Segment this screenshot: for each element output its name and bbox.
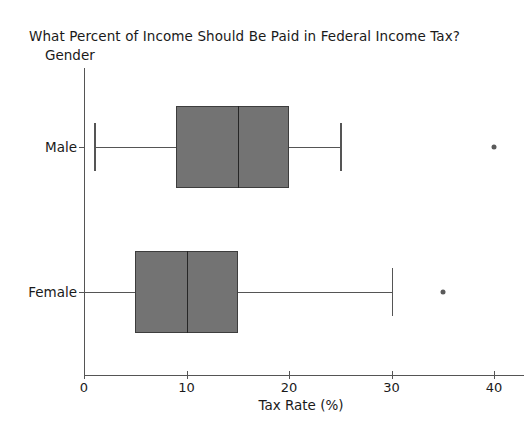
y-axis-tick-label: Male [0, 139, 77, 155]
boxplot-median-line [187, 251, 189, 333]
boxplot-whisker-high [289, 147, 340, 148]
x-axis-tick [494, 371, 495, 379]
x-axis-tick-label: 10 [178, 380, 195, 395]
x-axis-tick [289, 371, 290, 379]
x-axis-tick [187, 371, 188, 379]
x-axis-title-text: Tax Rate (%) [258, 397, 343, 413]
y-axis-tick-label-wrap: Female [0, 292, 77, 308]
y-axis-tick [79, 147, 85, 148]
boxplot-whisker-low [94, 147, 176, 148]
x-axis-tick [392, 371, 393, 379]
boxplot-whisker-high [238, 292, 392, 293]
boxplot-cap-high [392, 268, 393, 316]
boxplot-median-line [238, 106, 240, 188]
boxplot-outlier-point [440, 290, 445, 295]
y-axis-title: Gender [45, 47, 95, 63]
y-axis-tick-label: Female [0, 284, 77, 300]
boxplot-figure: What Percent of Income Should Be Paid in… [0, 0, 524, 425]
x-axis-tick [84, 371, 85, 379]
boxplot-box [176, 106, 289, 188]
x-axis-line [84, 375, 524, 376]
x-axis-tick-label: 0 [80, 380, 88, 395]
boxplot-cap-low [94, 123, 95, 171]
x-axis-tick-label: 40 [486, 380, 503, 395]
boxplot-cap-high [340, 123, 341, 171]
x-axis-tick-label: 30 [383, 380, 400, 395]
boxplot-cap-low [84, 268, 85, 316]
x-axis-title: Tax Rate (%) [0, 397, 524, 413]
chart-title: What Percent of Income Should Be Paid in… [29, 28, 460, 44]
y-axis-tick-label-wrap: Male [0, 147, 77, 163]
boxplot-whisker-low [84, 292, 135, 293]
boxplot-outlier-point [492, 145, 497, 150]
x-axis-tick-label: 20 [281, 380, 298, 395]
y-axis-line [84, 68, 85, 376]
